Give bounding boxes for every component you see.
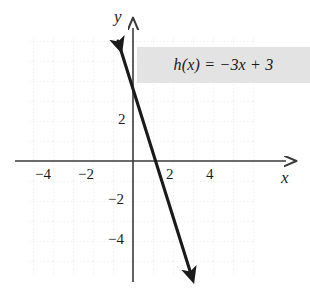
x-tick-label-neg2: −2 [78, 167, 94, 182]
x-tick-label-pos2: 2 [166, 167, 174, 182]
y-tick-label-neg4: −4 [108, 232, 124, 247]
coordinate-plane [0, 0, 310, 288]
y-tick-label-neg2: −2 [108, 192, 124, 207]
y-tick-label-pos2: 2 [118, 112, 126, 127]
y-axis-name-label: y [114, 8, 122, 25]
x-axis-name-label: x [281, 169, 289, 186]
equation-text: h(x) = −3x + 3 [173, 56, 273, 74]
equation-annotation: h(x) = −3x + 3 [137, 47, 310, 83]
graph-figure: −4 −2 2 4 2 −2 −4 x y h(x) = −3x + 3 [0, 0, 310, 288]
x-tick-label-pos4: 4 [206, 167, 214, 182]
x-tick-label-neg4: −4 [35, 167, 51, 182]
